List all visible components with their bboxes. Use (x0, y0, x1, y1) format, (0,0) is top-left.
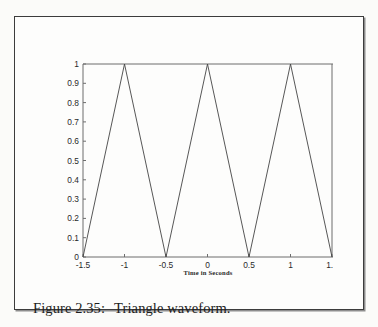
x-tick-label: -1 (121, 260, 129, 270)
figure-caption-text: Triangle waveform. (114, 300, 230, 316)
axis-box (83, 64, 333, 257)
y-tick-label: 0.6 (67, 136, 79, 146)
y-tick-label: 0.4 (67, 175, 79, 185)
y-tick-label: 0.3 (67, 194, 79, 204)
y-tick-label: 0.1 (67, 233, 79, 243)
x-tick-label: 1.5 (326, 260, 333, 270)
y-tick-label: 0.8 (67, 98, 79, 108)
x-tick-label: -1.5 (76, 260, 91, 270)
x-tick-group: -1.5-1-0.500.511.5 (76, 254, 333, 270)
x-axis-title: Time in Seconds (183, 269, 232, 276)
figure-caption: Figure 2.35:Triangle waveform. (33, 300, 231, 317)
waveform-data-line (83, 64, 332, 257)
plot-area: 00.10.20.30.40.50.60.70.80.91 -1.5-1-0.5… (67, 48, 333, 276)
figure-frame: 00.10.20.30.40.50.60.70.80.91 -1.5-1-0.5… (14, 16, 364, 310)
y-tick-label: 0.9 (67, 78, 79, 88)
x-tick-label: 0.5 (243, 260, 255, 270)
figure-page: 00.10.20.30.40.50.60.70.80.91 -1.5-1-0.5… (0, 0, 378, 327)
y-tick-label: 1 (74, 59, 79, 69)
y-tick-label: 0.5 (67, 156, 79, 166)
y-tick-label: 0.7 (67, 117, 79, 127)
figure-caption-label: Figure 2.35: (33, 300, 105, 316)
x-tick-label: -0.5 (159, 260, 174, 270)
x-tick-label: 1 (288, 260, 293, 270)
y-tick-label: 0.2 (67, 213, 79, 223)
triangle-waveform-plot: 00.10.20.30.40.50.60.70.80.91 -1.5-1-0.5… (67, 48, 333, 276)
